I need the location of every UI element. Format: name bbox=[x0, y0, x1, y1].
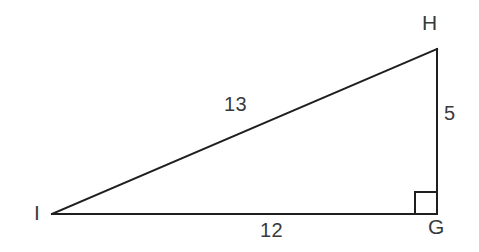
side-length-label-hypotenuse: 13 bbox=[224, 94, 247, 114]
right-angle-marker-icon bbox=[415, 192, 437, 213]
vertex-label-g: G bbox=[428, 216, 445, 237]
triangle-drawing bbox=[0, 0, 479, 252]
side-line-hypotenuse-IH bbox=[52, 49, 437, 214]
vertex-label-h: H bbox=[422, 12, 438, 33]
geometry-figure: H I G 13 5 12 bbox=[0, 0, 479, 252]
vertex-label-i: I bbox=[34, 202, 40, 223]
side-length-label-base-leg: 12 bbox=[260, 220, 283, 240]
side-length-label-vertical-leg: 5 bbox=[444, 103, 456, 123]
